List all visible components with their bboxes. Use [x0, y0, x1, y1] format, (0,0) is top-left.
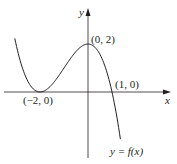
- max-point-label: (0, 2): [91, 33, 115, 46]
- min-point-label: (−2, 0): [23, 94, 53, 107]
- y-axis-label: y: [78, 6, 84, 18]
- y-axis-arrow-icon: [86, 8, 91, 16]
- curve-label: y = f(x): [109, 145, 143, 158]
- root-point-label: (1, 0): [115, 78, 139, 91]
- function-graph: y x (0, 2) (1, 0) (−2, 0) y = f(x): [0, 0, 177, 164]
- x-axis-label: x: [164, 94, 170, 106]
- function-curve: [15, 38, 121, 139]
